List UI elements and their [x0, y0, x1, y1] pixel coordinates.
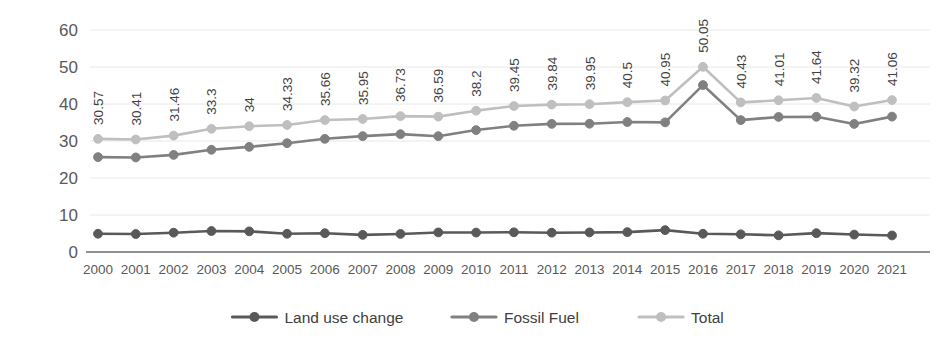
- data-label: 39.32: [847, 59, 862, 93]
- x-axis-tick-label: 2013: [574, 262, 604, 277]
- legend-item-total[interactable]: Total: [639, 309, 724, 326]
- data-label: 36.73: [393, 68, 408, 102]
- chart-legend: Land use changeFossil FuelTotal: [232, 309, 723, 326]
- series-marker: [358, 115, 367, 124]
- series-marker: [320, 134, 329, 143]
- series-marker: [585, 100, 594, 109]
- series-marker: [774, 231, 783, 240]
- x-axis-tick-label: 2021: [877, 262, 907, 277]
- x-axis-tick-label: 2009: [423, 262, 453, 277]
- series-marker: [320, 229, 329, 238]
- legend-item-land-use-change[interactable]: Land use change: [232, 309, 403, 326]
- data-label: 40.43: [734, 55, 749, 89]
- x-axis-tick-label: 2015: [650, 262, 680, 277]
- series-marker: [661, 96, 670, 105]
- series-marker: [812, 112, 821, 121]
- y-axis-tick-label: 40: [59, 95, 78, 114]
- series-marker: [245, 227, 254, 236]
- series-marker: [131, 135, 140, 144]
- series-marker: [850, 230, 859, 239]
- series-marker: [812, 94, 821, 103]
- series-marker: [434, 112, 443, 121]
- series-marker: [245, 142, 254, 151]
- x-axis-tick-label: 2014: [612, 262, 643, 277]
- data-label: 34.33: [280, 77, 295, 111]
- y-axis-tick-label: 50: [59, 58, 78, 77]
- series-marker: [547, 100, 556, 109]
- x-axis-tick-label: 2002: [159, 262, 189, 277]
- series-marker: [396, 230, 405, 239]
- series-marker: [358, 132, 367, 141]
- x-axis-tick-label: 2004: [234, 262, 265, 277]
- y-axis-tick-label: 60: [59, 21, 78, 40]
- series-marker: [510, 102, 519, 111]
- legend-marker: [656, 312, 666, 322]
- x-axis-tick-label: 2000: [83, 262, 113, 277]
- series-marker: [812, 229, 821, 238]
- y-axis-tick-label: 0: [69, 243, 78, 262]
- series-marker: [283, 229, 292, 238]
- series-marker: [888, 96, 897, 105]
- data-label: 35.95: [356, 71, 371, 105]
- y-axis-tick-labels: 0102030405060: [59, 21, 78, 262]
- series-marker: [547, 119, 556, 128]
- series-marker: [396, 112, 405, 121]
- gridlines-group: [90, 30, 930, 215]
- data-label: 39.84: [545, 56, 560, 90]
- data-label: 30.41: [129, 92, 144, 126]
- series-marker: [169, 228, 178, 237]
- series-marker: [888, 231, 897, 240]
- series-marker: [169, 131, 178, 140]
- legend-marker: [249, 312, 259, 322]
- series-marker: [699, 81, 708, 90]
- data-label: 31.46: [167, 88, 182, 122]
- x-axis-tick-label: 2019: [801, 262, 831, 277]
- data-label: 50.05: [696, 19, 711, 53]
- data-label: 41.06: [885, 52, 900, 86]
- x-axis-tick-label: 2018: [764, 262, 794, 277]
- series-land-use-change: [94, 226, 897, 240]
- data-label: 36.59: [431, 69, 446, 103]
- series-marker: [283, 121, 292, 130]
- data-label: 40.5: [620, 62, 635, 88]
- line-chart: 0102030405060 30.5730.4131.4633.33434.33…: [0, 0, 944, 340]
- data-label: 35.66: [318, 72, 333, 106]
- x-axis-tick-label: 2003: [196, 262, 226, 277]
- legend-label: Fossil Fuel: [504, 309, 579, 326]
- y-axis-tick-label: 20: [59, 169, 78, 188]
- series-marker: [850, 120, 859, 129]
- series-marker: [358, 230, 367, 239]
- series-marker: [585, 119, 594, 128]
- data-label: 41.01: [772, 52, 787, 86]
- series-marker: [207, 124, 216, 133]
- series-marker: [320, 116, 329, 125]
- x-axis-tick-label: 2006: [310, 262, 340, 277]
- series-marker: [661, 118, 670, 127]
- series-marker: [547, 228, 556, 237]
- x-axis-tick-label: 2017: [726, 262, 756, 277]
- x-axis-tick-label: 2011: [499, 262, 528, 277]
- x-axis-tick-label: 2020: [839, 262, 869, 277]
- x-axis-tick-label: 2007: [348, 262, 378, 277]
- series-marker: [207, 145, 216, 154]
- series-marker: [283, 139, 292, 148]
- series-marker: [661, 226, 670, 235]
- series-marker: [623, 118, 632, 127]
- series-marker: [472, 126, 481, 135]
- series-marker: [245, 122, 254, 131]
- series-marker: [623, 228, 632, 237]
- series-marker: [510, 121, 519, 130]
- legend-item-fossil-fuel[interactable]: Fossil Fuel: [452, 309, 579, 326]
- x-axis-tick-label: 2016: [688, 262, 718, 277]
- series-marker: [888, 112, 897, 121]
- legend-label: Total: [691, 309, 724, 326]
- series-marker: [396, 130, 405, 139]
- series-marker: [94, 229, 103, 238]
- series-marker: [850, 102, 859, 111]
- series-marker: [472, 106, 481, 115]
- series-marker: [94, 153, 103, 162]
- series-marker: [472, 228, 481, 237]
- legend-label: Land use change: [284, 309, 403, 326]
- series-marker: [736, 230, 745, 239]
- data-label: 39.95: [583, 56, 598, 90]
